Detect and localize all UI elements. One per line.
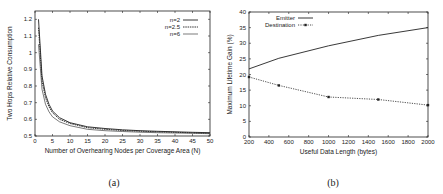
legend-label: n=6: [170, 31, 181, 37]
data-point-marker: [248, 76, 250, 78]
x-tick-label: 35: [154, 138, 161, 144]
x-tick-label: 1800: [401, 139, 415, 145]
y-tick-label: 1.2: [24, 16, 33, 22]
series-line-Emitter: [249, 28, 428, 69]
legend-label: n=2.5: [165, 24, 181, 30]
plot-frame: [35, 11, 210, 136]
chart-a: 051015202530354045500.50.60.70.80.911.11…: [6, 11, 214, 189]
data-point-marker: [427, 104, 429, 106]
x-tick-label: 1400: [362, 139, 376, 145]
x-tick-label: 2000: [421, 139, 435, 145]
figure: 051015202530354045500.50.60.70.80.911.11…: [0, 0, 443, 194]
y-tick-label: 0.8: [24, 83, 33, 89]
y-tick-label: 15: [239, 87, 246, 93]
y-tick-label: 0.6: [24, 116, 33, 122]
x-tick-label: 1600: [382, 139, 396, 145]
x-tick-label: 40: [172, 138, 179, 144]
x-tick-label: 30: [137, 138, 144, 144]
legend-label: Emitter: [276, 15, 295, 21]
x-tick-label: 400: [264, 139, 275, 145]
x-tick-label: 1200: [342, 139, 356, 145]
x-tick-label: 0: [33, 138, 37, 144]
legend-label: Destination: [265, 22, 295, 28]
x-tick-label: 20: [102, 138, 109, 144]
x-tick-label: 25: [119, 138, 126, 144]
figure-caption: (b): [327, 177, 339, 189]
y-axis-label: Maximum Lifetime Gain (%): [226, 34, 234, 114]
y-tick-label: 5: [243, 118, 247, 124]
y-tick-label: 10: [239, 103, 246, 109]
legend-label: n=2: [170, 17, 181, 23]
x-tick-label: 15: [84, 138, 91, 144]
y-tick-label: 0.9: [24, 66, 33, 72]
y-tick-label: 40: [239, 9, 246, 15]
data-point-marker: [327, 96, 329, 98]
data-point-marker: [377, 98, 379, 100]
y-tick-label: 35: [239, 25, 246, 31]
series-line-n=2: [39, 19, 211, 132]
plot-frame: [249, 12, 428, 137]
x-tick-label: 600: [284, 139, 295, 145]
x-axis-label: Number of Overhearing Nodes per Coverage…: [45, 147, 201, 155]
data-point-marker: [278, 84, 280, 86]
x-tick-label: 45: [189, 138, 196, 144]
figure-caption: (a): [108, 177, 119, 189]
y-tick-label: 1.1: [24, 33, 33, 39]
y-tick-label: 1: [29, 50, 33, 56]
y-axis-label: Two Hops Relative Consumption: [6, 26, 14, 121]
y-tick-label: 0.5: [24, 133, 33, 139]
x-tick-label: 5: [51, 138, 55, 144]
y-tick-label: 20: [239, 72, 246, 78]
y-tick-label: 0.7: [24, 100, 33, 106]
y-tick-label: 25: [239, 56, 246, 62]
x-tick-label: 10: [67, 138, 74, 144]
y-tick-label: 30: [239, 40, 246, 46]
x-tick-label: 1000: [322, 139, 336, 145]
x-tick-label: 800: [304, 139, 315, 145]
x-axis-label: Useful Data Length (bytes): [300, 148, 377, 156]
x-tick-label: 50: [207, 138, 214, 144]
chart-b: 2004006008001000120014001600180020000510…: [226, 9, 435, 189]
series-line-n=2.5: [39, 28, 211, 134]
series-line-Destination: [249, 77, 428, 105]
